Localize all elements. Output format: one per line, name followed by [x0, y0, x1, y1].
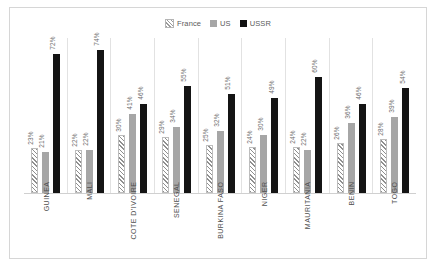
- bar-group: 29%34%55%: [155, 38, 199, 193]
- bar-slot: 49%: [271, 38, 278, 193]
- legend-label-us: US: [220, 19, 231, 28]
- bar-value-label: 23%: [27, 132, 34, 145]
- bar-slot: 22%: [304, 38, 311, 193]
- bar-value-label: 74%: [93, 32, 100, 45]
- us-gray-swatch: [210, 20, 217, 27]
- bar-slot: 46%: [359, 38, 366, 193]
- bar-value-label: 41%: [126, 96, 133, 109]
- bar-value-label: 22%: [71, 134, 78, 147]
- legend-label-france: France: [177, 19, 201, 28]
- bar-group: 26%36%46%: [330, 38, 374, 193]
- category-label: COTE D'IVOIRE: [129, 182, 136, 262]
- bar-slot: 30%: [260, 38, 267, 193]
- bar-slot: 54%: [402, 38, 409, 193]
- bar-slot: 21%: [42, 38, 49, 193]
- category-tick: MAURITANIA: [285, 196, 329, 254]
- bar-value-label: 30%: [257, 117, 264, 130]
- legend-item-us[interactable]: US: [210, 19, 231, 28]
- bar-value-label: 28%: [377, 122, 384, 135]
- bar-ussr[interactable]: 51%: [228, 94, 235, 193]
- bar-group: 24%30%49%: [242, 38, 286, 193]
- bar-slot: 34%: [173, 38, 180, 193]
- bar-france[interactable]: 29%: [162, 137, 169, 193]
- bar-value-label: 55%: [180, 69, 187, 82]
- bar-value-label: 72%: [49, 36, 56, 49]
- bar-value-label: 24%: [289, 130, 296, 143]
- category-axis-labels: GUINEAMALICOTE D'IVOIRESENEGALBURKINA FA…: [24, 196, 416, 254]
- bar-ussr[interactable]: 46%: [140, 104, 147, 193]
- bar-slot: 55%: [184, 38, 191, 193]
- bar-value-label: 54%: [399, 71, 406, 84]
- bar-group: 30%41%46%: [111, 38, 155, 193]
- bar-france[interactable]: 26%: [337, 143, 344, 193]
- bar-value-label: 29%: [158, 120, 165, 133]
- bar-slot: 39%: [391, 38, 398, 193]
- bar-slot: 74%: [97, 38, 104, 193]
- bar-france[interactable]: 23%: [31, 148, 38, 193]
- bar-france[interactable]: 30%: [118, 135, 125, 193]
- category-label: SENEGAL: [173, 182, 180, 262]
- bar-france[interactable]: 24%: [249, 147, 256, 194]
- bar-slot: 28%: [380, 38, 387, 193]
- legend-item-france[interactable]: France: [165, 19, 201, 28]
- bar-value-label: 36%: [344, 106, 351, 119]
- bar-slot: 32%: [217, 38, 224, 193]
- bar-slot: 23%: [31, 38, 38, 193]
- bar-ussr[interactable]: 72%: [53, 54, 60, 194]
- bar-france[interactable]: 25%: [206, 145, 213, 193]
- bar-slot: 24%: [293, 38, 300, 193]
- category-label: GUINEA: [42, 182, 49, 262]
- category-label: BENIN: [347, 182, 354, 262]
- category-tick: TOGO: [373, 196, 417, 254]
- bar-france[interactable]: 22%: [75, 150, 82, 193]
- bar-slot: 36%: [348, 38, 355, 193]
- category-label: MAURITANIA: [304, 182, 311, 262]
- bar-france[interactable]: 24%: [293, 147, 300, 194]
- ussr-black-swatch: [240, 20, 247, 27]
- category-tick: COTE D'IVOIRE: [111, 196, 155, 254]
- bar-slot: 22%: [75, 38, 82, 193]
- category-tick: NIGER: [242, 196, 286, 254]
- bar-ussr[interactable]: 60%: [315, 77, 322, 193]
- category-label: MALI: [86, 182, 93, 262]
- bar-value-label: 51%: [224, 77, 231, 90]
- category-tick: BURKINA FASO: [198, 196, 242, 254]
- bar-ussr[interactable]: 55%: [184, 86, 191, 193]
- bar-slot: 46%: [140, 38, 147, 193]
- bar-value-label: 49%: [268, 80, 275, 93]
- bar-value-label: 25%: [202, 128, 209, 141]
- bar-slot: 30%: [118, 38, 125, 193]
- category-tick: BENIN: [329, 196, 373, 254]
- chart-legend: France US USSR: [10, 19, 426, 28]
- bar-slot: 29%: [162, 38, 169, 193]
- bar-group: 28%39%54%: [373, 38, 416, 193]
- category-label: BURKINA FASO: [217, 182, 224, 262]
- legend-label-ussr: USSR: [250, 19, 271, 28]
- bar-ussr[interactable]: 49%: [271, 98, 278, 193]
- plot-area: 23%21%72%22%22%74%30%41%46%29%34%55%25%3…: [24, 38, 416, 193]
- bar-value-label: 60%: [311, 59, 318, 72]
- bar-value-label: 21%: [38, 135, 45, 148]
- chart-container: France US USSR 23%21%72%22%22%74%30%41%4…: [9, 7, 427, 259]
- bar-ussr[interactable]: 54%: [402, 88, 409, 193]
- bar-value-label: 46%: [355, 86, 362, 99]
- bar-slot: 22%: [86, 38, 93, 193]
- bar-group: 24%22%60%: [286, 38, 330, 193]
- legend-item-ussr[interactable]: USSR: [240, 19, 271, 28]
- bar-value-label: 32%: [213, 113, 220, 126]
- bar-slot: 26%: [337, 38, 344, 193]
- bar-slot: 60%: [315, 38, 322, 193]
- category-tick: MALI: [68, 196, 112, 254]
- bar-france[interactable]: 28%: [380, 139, 387, 193]
- bar-ussr[interactable]: 46%: [359, 104, 366, 193]
- bar-value-label: 34%: [169, 109, 176, 122]
- bar-group: 22%22%74%: [68, 38, 112, 193]
- bar-value-label: 30%: [115, 118, 122, 131]
- bar-slot: 41%: [129, 38, 136, 193]
- bar-value-label: 22%: [300, 133, 307, 146]
- bar-slot: 72%: [53, 38, 60, 193]
- bar-value-label: 46%: [137, 86, 144, 99]
- category-tick: GUINEA: [24, 196, 68, 254]
- bar-ussr[interactable]: 74%: [97, 50, 104, 193]
- france-hatch-swatch: [165, 19, 174, 28]
